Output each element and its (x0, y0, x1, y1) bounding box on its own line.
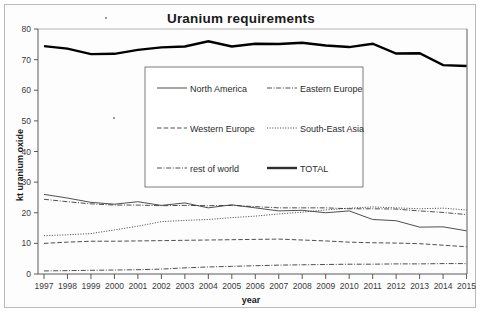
x-tick-label: 1997 (35, 281, 54, 291)
x-axis-label: year (242, 295, 261, 305)
plot-area-wrapper: kt uranium oxide year 01020304050607080 … (5, 5, 477, 309)
series-line-rest-of-world (44, 264, 467, 271)
x-tick-label: 2003 (175, 281, 194, 291)
x-tick-label: 2008 (293, 281, 312, 291)
x-tick-label: 2009 (316, 281, 335, 291)
y-tick-label: 0 (26, 269, 31, 279)
scan-speck (105, 17, 107, 19)
legend-label: South-East Asia (300, 124, 364, 134)
series-line-south-east-asia (44, 207, 467, 236)
x-tick-label: 2012 (387, 281, 406, 291)
x-tick-label: 2014 (434, 281, 453, 291)
series-line-eastern-europe (44, 199, 467, 214)
x-tick-label: 1999 (81, 281, 100, 291)
x-tick-label: 2010 (340, 281, 359, 291)
legend-label: TOTAL (300, 164, 328, 174)
y-tick-label: 70 (22, 55, 32, 65)
chart-legend: North AmericaEastern EuropeWestern Europ… (145, 67, 364, 187)
x-tick-label: 2004 (199, 281, 218, 291)
series-line-western-europe (44, 239, 467, 247)
y-tick-label: 60 (22, 85, 32, 95)
legend-label: rest of world (190, 164, 239, 174)
legend-label: Western Europe (190, 124, 255, 134)
y-axis-ticks: 01020304050607080 (22, 24, 38, 279)
y-tick-label: 10 (22, 238, 32, 248)
y-tick-label: 30 (22, 177, 32, 187)
x-tick-label: 2001 (128, 281, 147, 291)
y-axis-label: kt uranium oxide (15, 129, 25, 201)
x-tick-label: 2013 (410, 281, 429, 291)
chart-frame: Uranium requirements kt uranium oxide ye… (4, 4, 476, 308)
scan-speck (113, 117, 115, 119)
x-tick-label: 2006 (246, 281, 265, 291)
x-tick-label: 1998 (58, 281, 77, 291)
x-tick-label: 2002 (152, 281, 171, 291)
x-tick-label: 2007 (269, 281, 288, 291)
y-tick-label: 80 (22, 24, 32, 34)
y-tick-label: 40 (22, 147, 32, 157)
legend-label: North America (190, 84, 247, 94)
x-axis-ticks: 1997199819992000200120022003200420052006… (35, 274, 477, 291)
series-line-north-america (44, 194, 467, 230)
legend-label: Eastern Europe (300, 84, 363, 94)
x-tick-label: 2000 (105, 281, 124, 291)
y-tick-label: 20 (22, 208, 32, 218)
series-line-total (44, 41, 467, 66)
x-tick-label: 2011 (364, 281, 383, 291)
line-chart: kt uranium oxide year 01020304050607080 … (5, 5, 477, 309)
y-tick-label: 50 (22, 116, 32, 126)
x-tick-label: 2015 (457, 281, 476, 291)
x-tick-label: 2005 (222, 281, 241, 291)
